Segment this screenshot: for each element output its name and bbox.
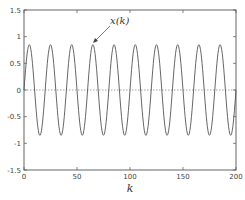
line-chart: 1.510.50-0.5-1-1.5 050100150200 x(k) k bbox=[0, 0, 245, 200]
x-axis-ticks: 050100150200 bbox=[22, 10, 243, 181]
y-tick-label: 1.5 bbox=[10, 7, 21, 15]
x-tick-label: 200 bbox=[229, 173, 242, 181]
signal-line-xk bbox=[24, 45, 236, 136]
x-tick-label: 50 bbox=[73, 173, 82, 181]
x-axis-label: k bbox=[127, 182, 134, 195]
y-tick-label: -1.5 bbox=[7, 167, 21, 175]
y-tick-label: 0 bbox=[17, 87, 21, 95]
y-tick-label: -1 bbox=[14, 140, 21, 148]
x-tick-label: 0 bbox=[22, 173, 26, 181]
annotation-arrow bbox=[95, 26, 110, 41]
annotation-label: x(k) bbox=[110, 15, 130, 26]
y-tick-label: 1 bbox=[17, 33, 21, 41]
y-axis-ticks: 1.510.50-0.5-1-1.5 bbox=[7, 7, 236, 175]
x-tick-label: 150 bbox=[176, 173, 189, 181]
y-tick-label: 0.5 bbox=[10, 60, 21, 68]
y-tick-label: -0.5 bbox=[7, 113, 21, 121]
x-tick-label: 100 bbox=[123, 173, 136, 181]
